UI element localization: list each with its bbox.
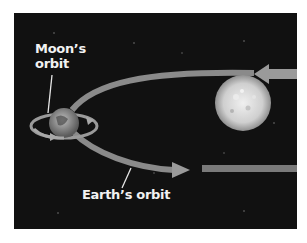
earth-orbit-label: Earth’s orbit [82, 187, 170, 202]
earth-orbit-lower-arc [74, 133, 174, 170]
orbit-arrowhead-left [254, 64, 297, 84]
moon-orbit-pointer [48, 75, 52, 113]
moon-orbit-label: Moon’s orbit [35, 41, 95, 71]
moon-orbit-label-line2: orbit [35, 56, 95, 71]
orbit-arrowhead-right [172, 162, 190, 178]
earth-orbit-pointer [122, 168, 131, 188]
sun-icon [215, 75, 271, 131]
earth-orbit-lower-right [202, 165, 297, 172]
diagram-panel: Moon’s orbit Earth’s orbit [14, 13, 297, 229]
moon-orbit-label-line1: Moon’s [35, 41, 95, 56]
